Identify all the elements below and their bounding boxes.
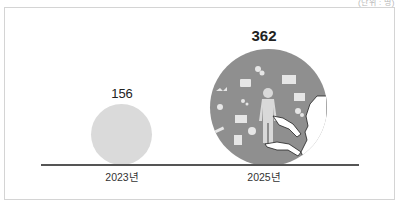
unit-caption: (단위 : 명) bbox=[358, 0, 395, 7]
bubble-2023 bbox=[91, 104, 152, 165]
x-label-2025: 2025년 bbox=[247, 169, 280, 184]
value-label-2025: 362 bbox=[251, 27, 276, 44]
value-label-2023: 156 bbox=[111, 86, 133, 101]
x-label-2023: 2023년 bbox=[105, 169, 138, 184]
x-axis-baseline bbox=[41, 164, 359, 166]
chart-frame bbox=[4, 7, 395, 200]
bubble-2025 bbox=[210, 49, 327, 166]
healthcare-illustration-icon bbox=[210, 49, 327, 166]
